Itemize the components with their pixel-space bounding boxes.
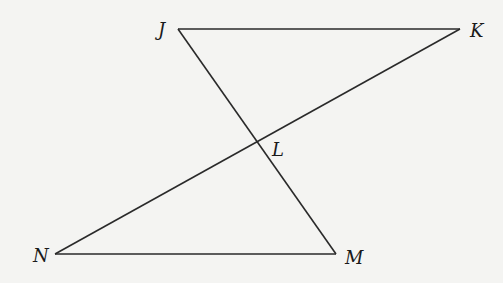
label-k: K [469, 20, 485, 41]
label-l: L [271, 139, 284, 160]
label-n: N [32, 245, 50, 266]
label-j: J [154, 19, 167, 40]
geometry-diagram: J K L N M [0, 0, 503, 283]
label-m: M [344, 247, 364, 268]
segment-kn [55, 29, 460, 254]
